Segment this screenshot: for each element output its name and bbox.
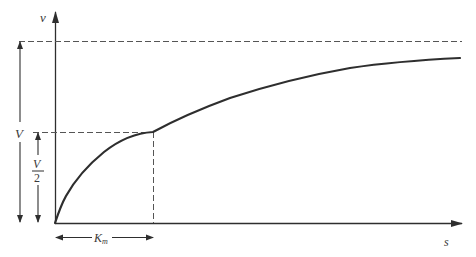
km-label-subscript: m xyxy=(102,237,108,246)
y-axis-label: v xyxy=(40,10,46,25)
saturation-curve xyxy=(55,58,460,223)
max-velocity-label: V xyxy=(15,126,25,141)
half-max-numerator: V xyxy=(33,157,42,171)
michaelis-menten-diagram: v s V V 2 Km xyxy=(0,0,476,257)
half-max-denominator: 2 xyxy=(34,171,40,185)
x-axis-label: s xyxy=(444,235,449,249)
km-label: Km xyxy=(93,231,108,246)
